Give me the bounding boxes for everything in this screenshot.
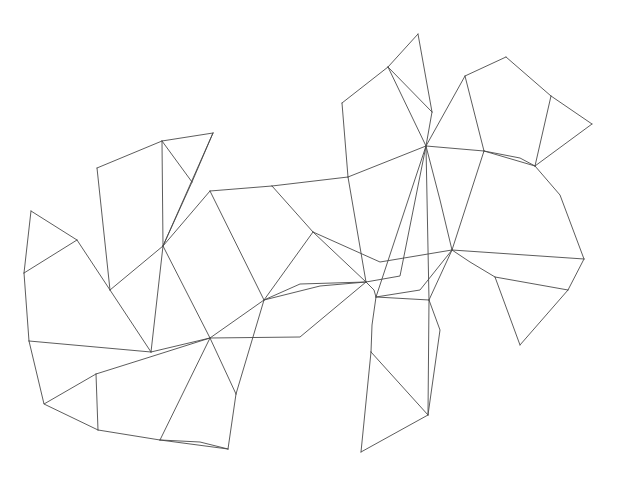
polyhedron-net-figure: left upper quad top edgeleft top triangl… bbox=[0, 0, 622, 479]
figure-canvas: left upper quad top edgeleft top triangl… bbox=[0, 0, 622, 479]
figure-background bbox=[0, 0, 622, 479]
